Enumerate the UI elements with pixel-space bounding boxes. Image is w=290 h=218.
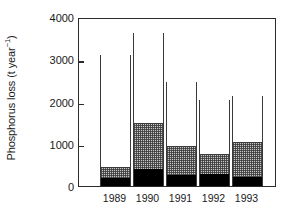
bar-segment-bottom-1992: [200, 174, 229, 186]
y-axis-label-close: ): [5, 35, 17, 39]
y-axis-label: Phosphorus loss (t year−1): [5, 35, 17, 160]
bar-segment-top-1989: [101, 55, 130, 167]
bar-segment-bottom-1991: [167, 175, 196, 186]
bar-segment-middle-1993: [233, 142, 262, 177]
bar-segment-bottom-1993: [233, 177, 262, 186]
y-axis-label-main: Phosphorus loss (t year: [5, 47, 17, 160]
chart-figure: Phosphorus loss (t year−1) 0100020003000…: [0, 0, 290, 218]
y-axis-tick-labels: 01000200030004000: [22, 0, 74, 218]
bar-segment-top-1990: [134, 33, 163, 123]
x-axis-tick-labels: 19891990199119921993: [78, 192, 276, 212]
x-axis-tick-label: 1991: [169, 192, 192, 204]
bar-segment-middle-1991: [167, 146, 196, 175]
x-axis-tick-label: 1993: [235, 192, 258, 204]
bar-1992: [199, 100, 230, 186]
y-axis-tick-label: 0: [22, 181, 74, 193]
bar-1991: [166, 82, 197, 186]
bar-segment-bottom-1990: [134, 169, 163, 186]
y-axis-tick-label: 3000: [22, 54, 74, 66]
y-axis-label-exponent: −1: [3, 38, 12, 46]
bar-segment-top-1992: [200, 100, 229, 154]
bar-segment-top-1993: [233, 96, 262, 142]
plot-area: [78, 18, 276, 187]
bar-1993: [232, 96, 263, 186]
bar-group: [79, 19, 275, 186]
y-axis-label-container: Phosphorus loss (t year−1): [0, 0, 22, 195]
x-axis-tick-label: 1992: [202, 192, 225, 204]
bar-segment-bottom-1989: [101, 178, 130, 186]
bar-segment-middle-1992: [200, 154, 229, 174]
bar-1990: [133, 33, 164, 186]
y-axis-tick-label: 2000: [22, 97, 74, 109]
y-axis-tick-label: 1000: [22, 139, 74, 151]
bar-segment-middle-1990: [134, 123, 163, 169]
bar-segment-top-1991: [167, 82, 196, 146]
y-axis-tick-label: 4000: [22, 12, 74, 24]
x-axis-tick-label: 1990: [136, 192, 159, 204]
bar-1989: [100, 55, 131, 186]
bar-segment-middle-1989: [101, 167, 130, 178]
x-axis-tick-label: 1989: [103, 192, 126, 204]
